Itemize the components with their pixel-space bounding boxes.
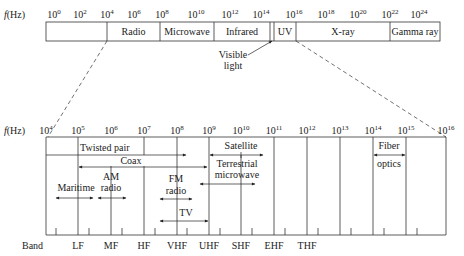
tick-label: 106 (127, 8, 141, 20)
service-tv: TV (160, 207, 208, 221)
band-name: EHF (265, 240, 284, 251)
band-name: LF (72, 240, 84, 251)
band-name: HF (138, 240, 151, 251)
svg-text:Visible: Visible (219, 49, 248, 60)
tick-label: 100 (47, 8, 61, 20)
band-label: Gamma ray (392, 26, 439, 37)
tick-label: 104 (39, 124, 53, 136)
top-spectrum-bar: RadioMicrowaveInfraredUVX-rayGamma ray (46, 22, 440, 41)
svg-text:Fiber: Fiber (378, 140, 400, 151)
svg-text:Satellite: Satellite (225, 140, 258, 151)
zoom-projection-right (296, 41, 446, 137)
band-name: SHF (232, 240, 251, 251)
visible-light-label: Visible light (219, 41, 272, 71)
band-label: X-ray (331, 26, 354, 37)
band-row-label: Band (22, 240, 43, 251)
medium-twisted-pair: Twisted pair (46, 142, 186, 155)
tick-label: 1014 (253, 8, 271, 20)
tick-label: 102 (73, 8, 87, 20)
svg-text:radio: radio (101, 182, 122, 193)
spectrum-diagram: f(Hz) 1001021041061081010101210141016101… (0, 0, 464, 256)
top-frequency-ticks: 1001021041061081010101210141016101810201… (47, 8, 428, 20)
band-names: LFMFHFVHFUHFSHFEHFTHF (72, 240, 317, 251)
tick-label: 1014 (365, 124, 383, 136)
service-maritime: Maritime (56, 182, 95, 198)
tick-label: 1012 (222, 8, 240, 20)
medium-coax: Coax (79, 155, 207, 167)
band-label: Radio (122, 26, 146, 37)
tick-label: 106 (104, 124, 118, 136)
top-axis-label: f(Hz) (4, 9, 25, 21)
svg-text:Twisted pair: Twisted pair (80, 142, 130, 153)
svg-text:f(Hz): f(Hz) (4, 9, 25, 21)
bottom-axis-label: f(Hz) (4, 125, 25, 137)
tick-label: 1024 (411, 8, 429, 20)
tick-label: 109 (202, 124, 216, 136)
tick-label: 104 (100, 8, 114, 20)
svg-text:microwave: microwave (215, 169, 260, 180)
band-name: UHF (199, 240, 219, 251)
svg-text:radio: radio (166, 185, 187, 196)
band-label: UV (278, 26, 293, 37)
tick-label: 108 (155, 8, 169, 20)
tick-label: 1010 (188, 8, 206, 20)
svg-text:Coax: Coax (120, 155, 141, 166)
svg-text:f(Hz): f(Hz) (4, 125, 25, 137)
medium-satellite: Satellite (210, 140, 263, 158)
svg-text:FM: FM (169, 173, 184, 184)
svg-text:optics: optics (377, 158, 401, 169)
band-label: Microwave (164, 26, 210, 37)
service-fm-radio: FM radio (160, 173, 192, 199)
tick-label: 105 (71, 124, 85, 136)
svg-text:Maritime: Maritime (57, 182, 95, 193)
svg-text:Band: Band (22, 240, 43, 251)
tick-label: 1015 (398, 124, 416, 136)
tick-label: 1011 (266, 124, 283, 136)
svg-text:AM: AM (103, 171, 119, 182)
tick-label: 1010 (233, 124, 251, 136)
bottom-frequency-ticks: 1041051061071081091010101110121013101410… (39, 124, 455, 136)
tick-label: 1012 (299, 124, 317, 136)
band-name: VHF (167, 240, 187, 251)
svg-text:Terrestrial: Terrestrial (217, 158, 258, 169)
service-am-radio: AM radio (98, 171, 126, 198)
tick-label: 1018 (318, 8, 336, 20)
tick-label: 1016 (286, 8, 304, 20)
band-name: MF (104, 240, 119, 251)
tick-label: 1020 (350, 8, 368, 20)
zoom-projection-left (48, 41, 107, 137)
tick-label: 108 (170, 124, 184, 136)
svg-text:light: light (224, 60, 243, 71)
tick-label: 1016 (438, 124, 456, 136)
medium-fiber-optics: Fiber optics (374, 140, 405, 169)
tick-label: 1022 (382, 8, 400, 20)
tick-label: 1013 (332, 124, 350, 136)
band-name: THF (298, 240, 317, 251)
tick-label: 107 (137, 124, 151, 136)
band-label: Infrared (226, 26, 258, 37)
svg-text:TV: TV (179, 207, 193, 218)
